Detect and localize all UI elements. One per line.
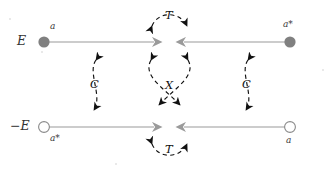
scan-speckle xyxy=(115,163,117,165)
time-reversal-bottom-label: T xyxy=(165,144,173,156)
chiral-center-label: X xyxy=(165,80,173,92)
lower-left-mode-label: a* xyxy=(50,134,60,143)
lower-right-mode-label: a xyxy=(286,136,291,145)
charge-conjugation-right-label: C xyxy=(242,79,251,91)
upper-energy-label: E xyxy=(17,35,26,48)
charge-conjugation-left-label: C xyxy=(90,79,99,91)
chiral-curve-b xyxy=(159,60,190,105)
lower-level-group xyxy=(39,122,296,133)
scan-speckle xyxy=(9,18,11,20)
upper-level-group xyxy=(38,36,295,47)
lower-right-node-hollow xyxy=(285,122,296,133)
upper-left-node-filled xyxy=(38,36,49,47)
scan-speckle xyxy=(41,51,43,53)
scan-speckle xyxy=(322,69,324,71)
lower-energy-label: −E xyxy=(10,120,30,133)
upper-left-mode-label: a xyxy=(50,22,55,31)
lower-left-node-hollow xyxy=(39,122,50,133)
time-reversal-top-label: T xyxy=(165,10,173,22)
upper-right-mode-label: a* xyxy=(283,20,293,29)
upper-right-node-filled xyxy=(284,36,295,47)
figure-canvas: E −E a a* a* a T T C C X xyxy=(0,0,333,172)
